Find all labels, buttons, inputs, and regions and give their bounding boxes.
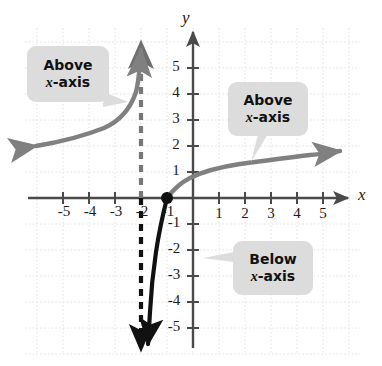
y-tick-label--4: -4 bbox=[163, 292, 185, 309]
callout-above-x-axis-right: Above x-axis bbox=[228, 82, 308, 136]
callout-tail-right bbox=[251, 134, 268, 162]
x-tick-label--5: -5 bbox=[53, 203, 75, 220]
y-tick-label-2: 2 bbox=[168, 136, 184, 153]
y-tick-label--2: -2 bbox=[163, 240, 185, 257]
callout-left-line1: Above bbox=[43, 57, 92, 75]
x-tick-label-5: 5 bbox=[315, 205, 331, 222]
callout-below-x-axis: Below x-axis bbox=[233, 241, 313, 295]
y-tick-label-4: 4 bbox=[168, 84, 184, 101]
x-axis-label: x bbox=[358, 185, 366, 205]
y-tick-label-5: 5 bbox=[168, 58, 184, 75]
x-tick-label-1: 1 bbox=[211, 205, 227, 222]
x-tick-label--4: -4 bbox=[79, 203, 101, 220]
x-tick-label-4: 4 bbox=[289, 205, 305, 222]
callout-below-line1: Below bbox=[249, 251, 297, 269]
callout-below-line2: x-axis bbox=[251, 268, 295, 286]
y-tick-label-3: 3 bbox=[168, 110, 184, 127]
y-tick-label--5: -5 bbox=[163, 318, 185, 335]
x-tick-label--3: -3 bbox=[105, 203, 127, 220]
callout-right-line1: Above bbox=[243, 92, 292, 110]
y-tick-label--1: -1 bbox=[163, 214, 185, 231]
x-tick-label--2: -2 bbox=[131, 203, 153, 220]
callout-left-line2: x-axis bbox=[46, 74, 90, 92]
y-tick-label--3: -3 bbox=[163, 266, 185, 283]
graph-figure: -5 -4 -3 -2 -1 1 2 3 4 5 5 4 3 2 1 -1 -2… bbox=[0, 0, 382, 366]
callout-above-x-axis-left: Above x-axis bbox=[27, 46, 109, 102]
callout-right-line2: x-axis bbox=[246, 109, 290, 127]
x-tick-label-3: 3 bbox=[263, 205, 279, 222]
x-tick-label-2: 2 bbox=[237, 205, 253, 222]
y-tick-label-1: 1 bbox=[168, 162, 184, 179]
y-axis-label: y bbox=[182, 8, 190, 28]
